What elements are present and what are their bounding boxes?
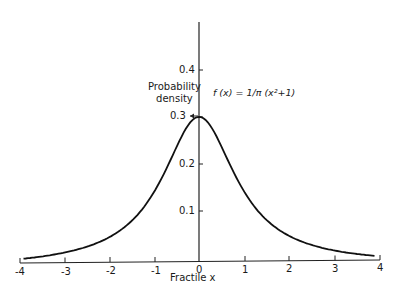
cauchy-density-plot [0, 0, 396, 298]
x-tick--1: -1 [151, 265, 161, 276]
x-tick-4: 4 [377, 262, 383, 273]
formula-annotation: f (x) = 1/π (x²+1) [213, 87, 295, 98]
x-axis-label: Fractile x [170, 272, 216, 283]
x-tick-1: 1 [242, 264, 248, 275]
x-tick-2: 2 [286, 263, 292, 274]
y-label-line2: density [148, 93, 201, 105]
x-tick--4: -4 [15, 266, 25, 277]
y-axis-label: Probability density [148, 81, 201, 105]
y-label-line1: Probability [148, 81, 201, 93]
x-tick--3: -3 [61, 266, 71, 277]
y-tick-0.1: 0.1 [179, 205, 195, 216]
y-tick-0.4: 0.4 [179, 64, 195, 75]
x-tick--2: -2 [106, 265, 116, 276]
x-axis [20, 260, 380, 263]
x-tick-0: 0 [196, 264, 202, 275]
y-tick-0.2: 0.2 [179, 158, 195, 169]
x-tick-3: 3 [332, 263, 338, 274]
y-tick-0.3: 0.3 [170, 110, 186, 121]
